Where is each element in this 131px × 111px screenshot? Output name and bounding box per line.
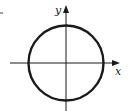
x-axis-label: x — [115, 65, 122, 78]
y-axis-label: y — [54, 4, 62, 17]
circle-diagram: y x — [0, 0, 131, 111]
y-axis-arrow-icon — [63, 5, 69, 13]
